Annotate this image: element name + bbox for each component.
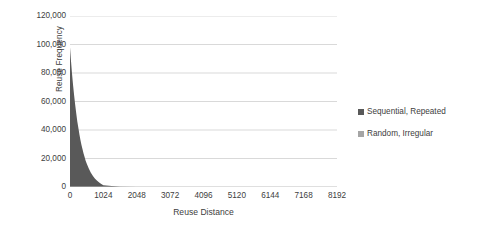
legend-swatch-icon: [358, 131, 364, 137]
x-axis-tick-labels: 010242048307240965120614471688192: [70, 190, 337, 204]
y-axis-tick-label: 120,000: [20, 11, 66, 21]
x-axis-title: Reuse Distance: [70, 207, 337, 217]
y-axis-tick-label: 20,000: [20, 154, 66, 164]
y-axis-tick-label: 80,000: [20, 68, 66, 78]
chart-legend: Sequential, RepeatedRandom, Irregular: [358, 105, 480, 149]
y-axis-tick-label: 60,000: [20, 97, 66, 107]
series-area: [70, 47, 337, 187]
legend-item[interactable]: Sequential, Repeated: [358, 105, 480, 119]
plot-area: [70, 16, 337, 187]
y-axis-tick-label: 40,000: [20, 125, 66, 135]
y-axis-tick-label: 100,000: [20, 40, 66, 50]
gridlines: [70, 16, 337, 159]
legend-item-label: Sequential, Repeated: [367, 107, 446, 117]
x-axis-tick-label: 8192: [317, 190, 357, 202]
series-area-paths: [70, 47, 337, 187]
legend-swatch-icon: [358, 109, 364, 115]
chart-container: Reuse Frequency 020,00040,00060,00080,00…: [0, 0, 483, 235]
legend-item[interactable]: Random, Irregular: [358, 127, 480, 141]
plot-svg: [70, 16, 337, 187]
legend-item-label: Random, Irregular: [367, 129, 433, 139]
